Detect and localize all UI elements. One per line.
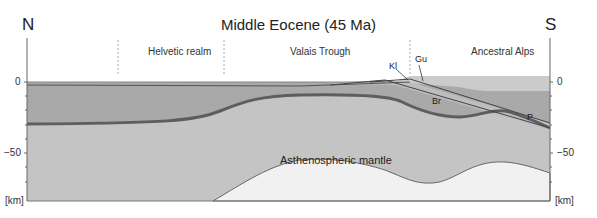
- left-tick-0: 0: [15, 76, 21, 87]
- right-axis-unit: [km]: [555, 195, 574, 206]
- unit-label-br: Br: [432, 96, 441, 106]
- right-tick-0: 0: [557, 76, 563, 87]
- left-tick-minus50: −50: [4, 147, 21, 158]
- kl-leader: [396, 69, 408, 80]
- unit-label-kl: Kl: [389, 61, 397, 71]
- unit-label-p: P: [527, 112, 533, 122]
- direction-north: N: [22, 15, 34, 35]
- realm-valais-trough: Valais Trough: [290, 46, 350, 57]
- diagram-title: Middle Eocene (45 Ma): [0, 16, 597, 33]
- left-axis-unit: [km]: [5, 195, 24, 206]
- mantle-label: Asthenospheric mantle: [280, 154, 392, 166]
- realm-ancestral-alps: Ancestral Alps: [471, 46, 534, 57]
- direction-south: S: [545, 15, 556, 35]
- right-tick-minus50: −50: [557, 147, 574, 158]
- realm-helvetic: Helvetic realm: [148, 46, 211, 57]
- unit-label-gu: Gu: [415, 54, 427, 64]
